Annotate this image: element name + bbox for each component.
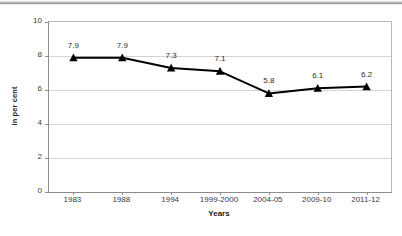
x-tick-label: 2004-05 — [253, 196, 282, 204]
data-point-label: 7.3 — [166, 52, 177, 60]
y-tick-label: 4 — [0, 119, 42, 127]
y-tick-label: 0 — [0, 187, 42, 195]
series-line — [49, 22, 391, 192]
data-point-label: 7.9 — [68, 42, 79, 50]
x-tick-label: 1983 — [64, 196, 82, 204]
data-point-label: 7.9 — [117, 42, 128, 50]
data-point-label: 6.1 — [312, 72, 323, 80]
plot-area: 7.97.97.37.15.86.16.2 — [48, 21, 392, 193]
x-axis-title: Years — [208, 209, 229, 218]
x-tick-label: 2011-12 — [351, 196, 380, 204]
x-tick-label: 1999-2000 — [200, 196, 238, 204]
x-tick-label: 2009-10 — [302, 196, 331, 204]
y-tick-label: 10 — [0, 17, 42, 25]
x-tick-label: 1988 — [112, 196, 130, 204]
y-tick-label: 2 — [0, 153, 42, 161]
x-tick-label: 1994 — [161, 196, 179, 204]
y-tick-label: 6 — [0, 85, 42, 93]
y-tick-label: 8 — [0, 51, 42, 59]
line-chart: in per cent 7.97.97.37.15.86.16.2 024681… — [0, 0, 402, 236]
y-tick-mark — [45, 192, 49, 193]
data-point-label: 7.1 — [214, 55, 225, 63]
data-point-label: 5.8 — [263, 77, 274, 85]
data-point-label: 6.2 — [361, 71, 372, 79]
